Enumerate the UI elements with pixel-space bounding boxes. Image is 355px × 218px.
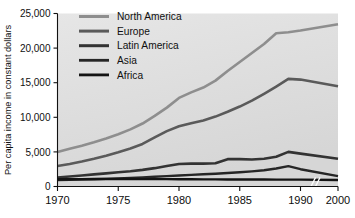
y-tick-label: 20,000: [20, 43, 51, 54]
x-tick-label: 1990: [288, 194, 312, 206]
chart-container: Per capita income in constant dollars05,…: [0, 0, 355, 218]
legend-label-north-america: North America: [117, 11, 182, 22]
x-tick-label: 1985: [228, 194, 252, 206]
legend-label-latin-america: Latin America: [117, 40, 179, 51]
x-tick-label: 1980: [167, 194, 191, 206]
y-tick-label: 15,000: [20, 77, 51, 88]
income-line-chart: Per capita income in constant dollars05,…: [0, 0, 355, 218]
legend-label-asia: Asia: [117, 55, 137, 66]
y-tick-label: 10,000: [20, 112, 51, 123]
y-axis: 05,00010,00015,00020,00025,000: [20, 8, 58, 192]
series-line-africa: [58, 179, 339, 180]
legend-label-europe: Europe: [117, 26, 150, 37]
y-axis-label: Per capita income in constant dollars: [3, 25, 13, 176]
x-tick-label: 1970: [45, 194, 69, 206]
y-tick-label: 0: [45, 181, 51, 192]
x-tick-label: 1975: [106, 194, 130, 206]
y-tick-label: 25,000: [20, 8, 51, 19]
legend-label-africa: Africa: [117, 70, 143, 81]
plot-background: [58, 14, 339, 187]
x-axis: 197019751980198519902000: [45, 187, 350, 206]
x-tick-label: 2000: [326, 194, 350, 206]
y-tick-label: 5,000: [25, 147, 50, 158]
